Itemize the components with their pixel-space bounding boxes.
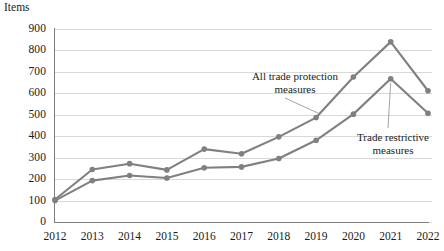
data-point-0-2021 [388,39,394,45]
data-point-1-2019 [313,137,319,143]
annotation-all-trade-protection: All trade protection measures [236,70,354,95]
data-point-0-2016 [201,146,207,152]
data-point-0-2013 [90,167,96,173]
data-point-1-2012 [52,198,58,204]
data-point-1-2016 [201,165,207,171]
data-point-0-2015 [164,167,170,173]
leader-line-all-trade-protection [285,98,319,114]
data-point-0-2022 [425,88,431,94]
data-point-1-2014 [127,173,133,179]
data-point-1-2013 [90,178,96,184]
data-point-0-2014 [127,161,133,167]
data-point-1-2022 [425,110,431,116]
annotation-trade-restrictive: Trade restrictive measures [348,131,438,156]
data-point-1-2015 [164,175,170,181]
data-point-0-2017 [239,151,245,157]
leader-line-trade-restrictive [388,83,391,128]
data-point-1-2018 [276,156,282,162]
data-point-0-2018 [276,134,282,140]
data-point-1-2020 [351,111,357,117]
data-point-0-2019 [313,115,319,121]
data-point-1-2021 [388,76,394,82]
data-point-1-2017 [239,164,245,170]
series-line-0 [55,42,428,200]
